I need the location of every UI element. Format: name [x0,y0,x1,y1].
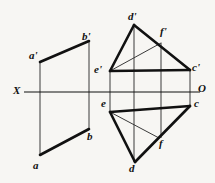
edge-e-c [110,106,190,112]
vertex-label-f-prime: f' [160,26,167,37]
vertex-label-c: c [194,98,199,109]
vertex-label-b: b [87,131,93,142]
edge-a-prime-b-prime [40,41,89,62]
edge-d-c [135,106,190,162]
vertex-label-a-prime: a' [29,50,38,61]
figure-outline-group [40,25,190,162]
edge-e-d [110,112,135,162]
vertex-label-e: e [101,98,106,109]
vertex-label-d: d [129,163,135,174]
projection-line-group [40,25,190,162]
vertex-label-a: a [33,160,39,171]
vertex-label-d-prime: d' [128,11,137,22]
edge-a-b [40,129,89,155]
vertex-label-f: f [159,138,163,149]
vertex-label-e-prime: e' [94,64,102,75]
axis-label-o: O [198,83,206,94]
edge-e-prime-c-prime [110,70,190,71]
vertex-label-b-prime: b' [82,31,91,42]
drawing-sheet: a'b'abd'f'e'c'ecfdXO [0,0,215,183]
vertex-label-c-prime: c' [192,62,200,73]
axis-label-x: X [13,85,20,96]
projection-drawing [0,0,215,183]
